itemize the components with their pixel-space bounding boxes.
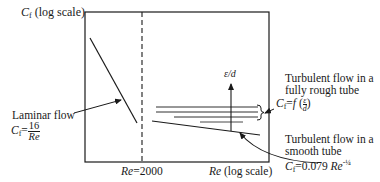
smooth-formula-symbol: C [285, 160, 293, 172]
smooth-formula-exponent: -¼ [343, 158, 351, 167]
rough-formula-fraction: εd [303, 97, 307, 112]
smooth-tube-formula: Cf=0.079 Re-¼ [285, 157, 351, 176]
y-axis-symbol: C [21, 5, 29, 19]
laminar-pointer-arrow [74, 100, 121, 113]
laminar-formula-symbol: C [11, 124, 19, 136]
laminar-fraction: 16Re [28, 121, 41, 142]
transition-label: Re=2000 [121, 165, 163, 177]
x-axis-symbol: Re [209, 165, 221, 177]
rough-formula-func: f [293, 97, 296, 109]
smooth-tube-label-line1: Turbulent flow in a [285, 133, 374, 145]
rough-tube-brace [257, 105, 264, 120]
rough-tube-formula: Cf=f (εd) [276, 97, 311, 113]
transition-value: =2000 [133, 165, 163, 177]
laminar-flow-line [90, 38, 137, 123]
y-axis-subscript: f [29, 11, 32, 20]
x-axis-scale-note: (log scale) [224, 165, 272, 177]
plot-frame [85, 12, 269, 162]
y-axis-scale-note: (log scale) [35, 5, 85, 19]
laminar-fraction-denominator: Re [28, 132, 41, 142]
rough-fraction-denominator: d [303, 105, 307, 112]
rough-tube-label-line1: Turbulent flow in a [285, 72, 374, 84]
rough-tube-label-line2: fully rough tube [285, 84, 359, 96]
transition-symbol: Re [121, 165, 133, 177]
smooth-tube-label-line2: smooth tube [285, 145, 342, 157]
y-axis-label: Cf (log scale) [21, 6, 85, 22]
rough-formula-symbol: C [276, 97, 284, 109]
smooth-formula-variable: Re [331, 160, 343, 172]
roughness-arrow-label: ε/d [224, 68, 236, 80]
smooth-tube-line [152, 121, 260, 135]
smooth-formula-coefficient: =0.079 [295, 160, 327, 172]
x-axis-label: Re (log scale) [209, 165, 272, 177]
laminar-formula: Cf=16Re [11, 121, 40, 142]
laminar-flow-label: Laminar flow [12, 109, 75, 121]
